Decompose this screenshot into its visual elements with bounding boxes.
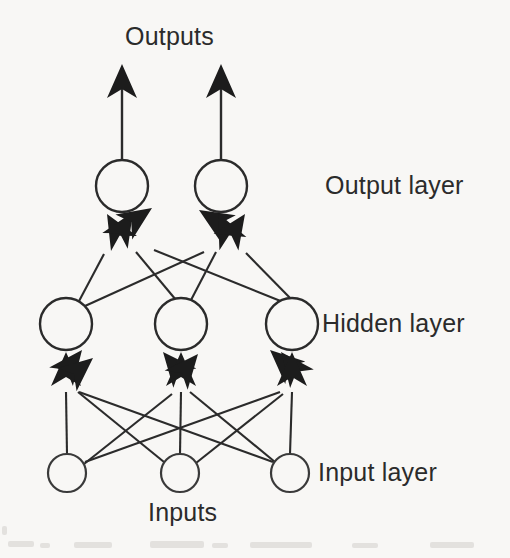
edge-i2-h3 [196,394,283,463]
edge-h2-o2 [190,252,216,302]
outputs-label: Outputs [125,24,214,49]
node-input-2[interactable] [161,454,199,492]
edge-i1-h2 [84,394,172,464]
node-output-2[interactable] [195,160,247,212]
edge-i2-h2 [180,392,181,454]
input-layer-nodes [48,454,309,492]
edge-i2-h1 [78,392,164,462]
edge-i1-h1 [66,392,67,454]
node-output-1[interactable] [96,160,148,212]
node-hidden-1[interactable] [40,298,92,350]
node-input-3[interactable] [271,454,309,492]
output-layer-label: Output layer [325,173,464,198]
edge-h1-o1 [78,254,104,303]
edge-h2-o1 [136,252,176,300]
arrowheads-outputs [107,64,236,98]
edge-h3-o1 [154,250,283,302]
edge-i3-h3 [290,392,292,454]
node-input-1[interactable] [48,454,86,492]
edge-i3-h2 [190,392,275,462]
hidden-layer-label: Hidden layer [322,311,465,336]
edge-i1-h3 [85,392,280,462]
node-hidden-2[interactable] [155,298,207,350]
input-layer-label: Input layer [318,460,437,485]
edge-h3-o2 [246,253,294,302]
node-hidden-3[interactable] [266,298,318,350]
inputs-label: Inputs [148,500,217,525]
hidden-layer-nodes [40,298,318,350]
edge-i3-h1 [79,392,273,462]
output-layer-nodes [96,160,247,212]
figure-canvas: Outputs Output layer Hidden layer Input … [0,0,510,558]
output-arrow-stems [122,88,221,160]
